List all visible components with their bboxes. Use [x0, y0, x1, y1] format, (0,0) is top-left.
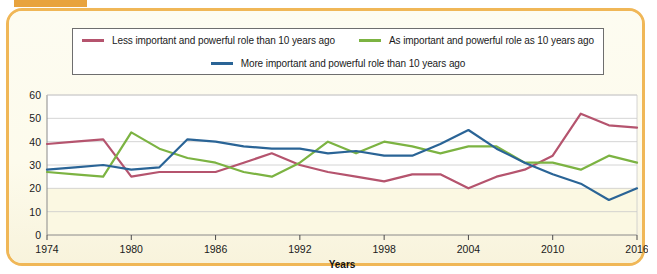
y-tick-label: 50 [29, 112, 41, 124]
chart-screenshot: 0102030405060197419801986199219982004201… [0, 0, 657, 274]
figure-frame: 0102030405060197419801986199219982004201… [6, 8, 645, 266]
y-tick-label: 20 [29, 182, 41, 194]
legend-label-less: Less important and powerful role than 10… [112, 35, 335, 46]
legend-row-bottom: More important and powerful role than 10… [73, 52, 603, 75]
y-tick-label: 60 [29, 89, 41, 101]
y-tick-label: 30 [29, 159, 41, 171]
y-tick-label: 40 [29, 136, 41, 148]
chart-legend: Less important and powerful role than 10… [72, 28, 604, 75]
legend-item-as-important: As important and powerful role as 10 yea… [359, 35, 594, 46]
legend-label-more: More important and powerful role than 10… [241, 58, 466, 69]
legend-swatch-icon-more [211, 62, 233, 65]
x-tick-label: 1998 [372, 243, 396, 255]
x-tick-label: 2016 [625, 243, 648, 255]
legend-row-top: Less important and powerful role than 10… [73, 29, 603, 52]
y-tick-label: 10 [29, 206, 41, 218]
x-tick-label: 1980 [120, 243, 144, 255]
x-tick-label: 1992 [288, 243, 312, 255]
x-tick-label: 1986 [204, 243, 228, 255]
x-tick-label: 2010 [541, 243, 565, 255]
x-tick-label: 2004 [457, 243, 481, 255]
orange-tab-bar [14, 0, 87, 7]
y-tick-label: 0 [35, 229, 41, 241]
legend-swatch-icon-as [359, 39, 381, 42]
legend-swatch-icon-less [82, 39, 104, 42]
legend-item-less-important: Less important and powerful role than 10… [82, 35, 335, 46]
legend-item-more-important: More important and powerful role than 10… [211, 58, 466, 69]
legend-label-as: As important and powerful role as 10 yea… [389, 35, 594, 46]
x-axis-title: Years [329, 259, 356, 269]
x-tick-label: 1974 [35, 243, 59, 255]
